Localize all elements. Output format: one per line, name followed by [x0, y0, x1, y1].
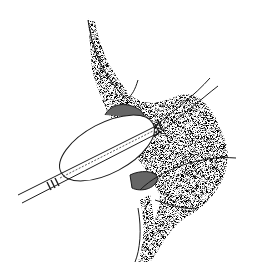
balloon-catheter-illustration — [0, 0, 256, 272]
